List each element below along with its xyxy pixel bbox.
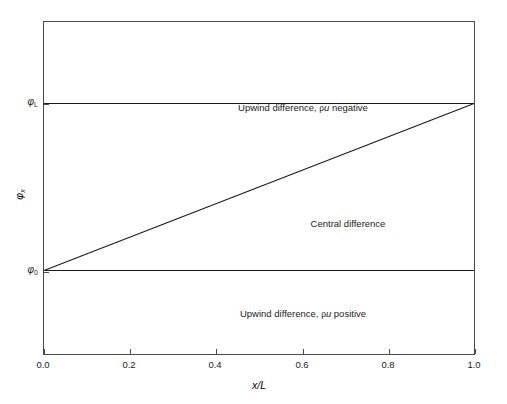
plot-lines-svg	[44, 22, 474, 354]
x-tick-label: 0.8	[381, 359, 394, 371]
annotation-upwind-positive: Upwind difference, ρu positive	[240, 308, 366, 320]
annotation-text: Upwind difference,	[240, 308, 321, 319]
annotation-suffix: negative	[329, 102, 368, 113]
x-tick-label: 0.6	[295, 359, 308, 371]
plot-area: Upwind difference, ρu negative Central d…	[43, 21, 475, 355]
x-tick-label: 0.2	[122, 359, 135, 371]
x-tick-label: 1.0	[467, 359, 480, 371]
annotation-central-difference: Central difference	[311, 218, 386, 230]
chart-figure: Upwind difference, ρu negative Central d…	[0, 0, 507, 404]
x-axis-title: x/L	[252, 379, 266, 391]
x-tick-label: 0.4	[208, 359, 221, 371]
x-tick-mark	[44, 349, 45, 354]
x-tick-mark	[130, 349, 131, 354]
annotation-text: Central difference	[311, 218, 386, 229]
x-tick-mark	[216, 349, 217, 354]
y-axis-title: φx	[13, 189, 26, 199]
phi-subscript: x	[19, 189, 26, 193]
x-tick-mark	[475, 349, 476, 354]
x-tick-mark	[303, 349, 304, 354]
annotation-text: Upwind difference,	[238, 102, 319, 113]
phi-symbol: φ	[13, 193, 25, 200]
x-tick-label: 0.0	[36, 359, 49, 371]
y-tick-label-phi-0: φ0	[28, 264, 38, 279]
phi-subscript: 0	[34, 269, 38, 276]
line-central-difference	[44, 104, 474, 271]
phi-subscript: L	[34, 101, 38, 108]
annotation-suffix: positive	[331, 308, 366, 319]
y-tick-mark	[44, 272, 49, 273]
x-tick-mark	[389, 349, 390, 354]
y-tick-mark	[44, 104, 49, 105]
annotation-upwind-negative: Upwind difference, ρu negative	[238, 102, 368, 114]
y-tick-label-phi-L: φL	[28, 96, 38, 111]
